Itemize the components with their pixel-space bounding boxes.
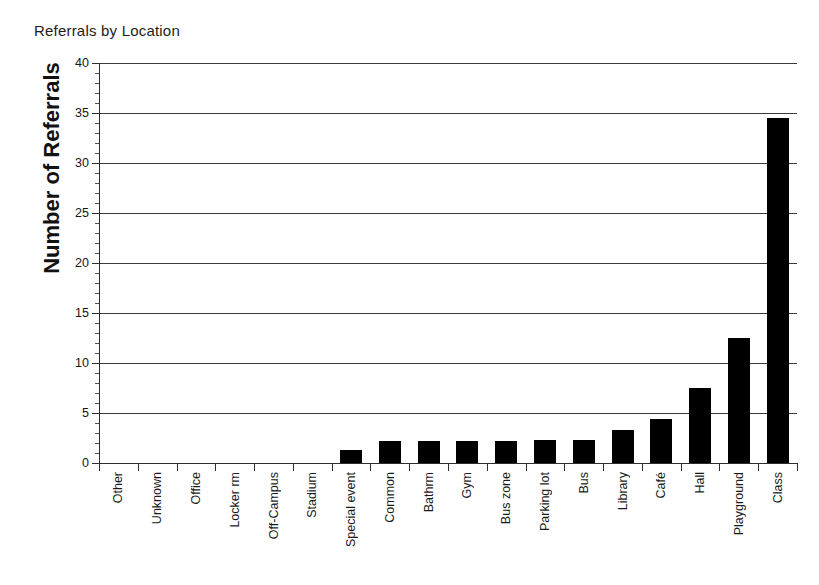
- bar: [534, 440, 556, 463]
- bar: [379, 441, 401, 463]
- bars-layer: [99, 63, 797, 463]
- y-tick-major: [92, 263, 99, 264]
- x-tick: [409, 463, 410, 471]
- bar: [573, 440, 595, 463]
- y-tick-label: 30: [49, 156, 89, 170]
- x-tick: [293, 463, 294, 471]
- x-tick-label-text: Bus: [577, 472, 591, 494]
- y-tick-label: 25: [49, 206, 89, 220]
- x-tick-label-text: Playground: [732, 472, 746, 535]
- x-tick: [99, 463, 100, 471]
- y-tick-label: 0: [49, 456, 89, 470]
- x-tick: [332, 463, 333, 471]
- x-tick: [215, 463, 216, 471]
- x-tick: [487, 463, 488, 471]
- bar: [340, 450, 362, 463]
- y-tick-label: 15: [49, 306, 89, 320]
- x-tick-label: Hall: [693, 472, 707, 580]
- x-tick-label: Off-Campus: [267, 472, 281, 580]
- x-tick: [564, 463, 565, 471]
- x-tick-label-text: Café: [654, 472, 668, 498]
- y-tick-major: [92, 363, 99, 364]
- x-tick-label: Stadium: [305, 472, 319, 580]
- x-tick-label: Café: [654, 472, 668, 580]
- y-tick-label: 5: [49, 406, 89, 420]
- x-tick-label: Unknown: [150, 472, 164, 580]
- y-tick-label: 10: [49, 356, 89, 370]
- x-tick: [603, 463, 604, 471]
- y-tick-major: [92, 213, 99, 214]
- y-axis-labels: 0510152025303540: [47, 63, 89, 463]
- y-tick-major: [92, 413, 99, 414]
- x-tick-label: Special event: [344, 472, 358, 580]
- x-tick-label: Other: [111, 472, 125, 580]
- x-tick-label: Gym: [460, 472, 474, 580]
- y-tick-label: 40: [49, 56, 89, 70]
- x-tick-label-text: Class: [771, 472, 785, 503]
- x-tick: [758, 463, 759, 471]
- x-tick: [370, 463, 371, 471]
- x-tick-label: Bathrm: [422, 472, 436, 580]
- x-tick-label-text: Unknown: [150, 472, 164, 524]
- x-tick-label-text: Stadium: [305, 472, 319, 518]
- x-tick: [526, 463, 527, 471]
- x-tick-label: Bus: [577, 472, 591, 580]
- bar: [689, 388, 711, 463]
- x-tick-label: Bus zone: [499, 472, 513, 580]
- y-tick-major: [92, 313, 99, 314]
- bar: [767, 118, 789, 463]
- x-tick-label: Playground: [732, 472, 746, 580]
- x-tick: [254, 463, 255, 471]
- x-tick: [642, 463, 643, 471]
- bar: [418, 441, 440, 463]
- bar: [728, 338, 750, 463]
- x-tick: [138, 463, 139, 471]
- x-tick-label-text: Bathrm: [422, 472, 436, 512]
- x-tick: [681, 463, 682, 471]
- x-axis-labels: OtherUnknownOfficeLocker rmOff-CampusSta…: [99, 472, 797, 582]
- x-tick-label-text: Common: [383, 472, 397, 523]
- y-tick-major: [92, 463, 99, 464]
- y-tick-label: 20: [49, 256, 89, 270]
- x-tick-label-text: Gym: [460, 472, 474, 498]
- x-tick-label: Class: [771, 472, 785, 580]
- plot-area: 0510152025303540: [99, 63, 797, 463]
- bar: [612, 430, 634, 463]
- x-tick: [719, 463, 720, 471]
- bar: [456, 441, 478, 463]
- y-tick-major: [92, 163, 99, 164]
- y-tick-major: [92, 63, 99, 64]
- x-tick-label-text: Special event: [344, 472, 358, 547]
- x-tick-label-text: Off-Campus: [267, 472, 281, 539]
- bar: [650, 419, 672, 463]
- x-tick-label: Office: [189, 472, 203, 580]
- x-tick-label: Library: [616, 472, 630, 580]
- y-tick-major: [92, 113, 99, 114]
- x-tick-label-text: Parking lot: [538, 472, 552, 531]
- x-tick-label: Parking lot: [538, 472, 552, 580]
- x-tick-label-text: Library: [616, 472, 630, 510]
- chart-container: Referrals by Location Number of Referral…: [0, 0, 819, 585]
- x-tick-label-text: Locker rm: [228, 472, 242, 528]
- x-tick-label-text: Office: [189, 472, 203, 504]
- x-tick-label: Common: [383, 472, 397, 580]
- y-tick-label: 35: [49, 106, 89, 120]
- x-tick-label-text: Hall: [693, 472, 707, 494]
- x-tick: [797, 463, 798, 471]
- x-tick-label-text: Bus zone: [499, 472, 513, 524]
- x-tick: [448, 463, 449, 471]
- x-tick: [177, 463, 178, 471]
- bar: [495, 441, 517, 463]
- x-tick-label-text: Other: [111, 472, 125, 503]
- x-tick-label: Locker rm: [228, 472, 242, 580]
